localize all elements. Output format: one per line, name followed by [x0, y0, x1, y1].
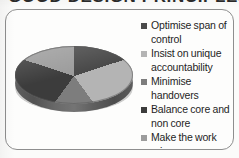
pie-chart: [12, 34, 136, 130]
legend-item-label: Make the work prime: [151, 131, 233, 150]
chart-frame: Optimise span of control Insist on uniqu…: [5, 9, 234, 150]
legend-swatch-icon: [141, 135, 147, 141]
legend-swatch-icon: [141, 23, 147, 29]
legend-item: Optimise span of control: [141, 19, 233, 46]
pie-chart-body: [12, 34, 136, 130]
page-heading-cropped: GOOD DESIGN PRINCIPLES: [0, 0, 239, 7]
legend-swatch-icon: [141, 107, 147, 113]
chart-legend: Optimise span of control Insist on uniqu…: [141, 19, 233, 150]
legend-item: Make the work prime: [141, 131, 233, 150]
legend-swatch-icon: [141, 79, 147, 85]
scanned-figure-page: GOOD DESIGN PRINCIPLES Optimise span of …: [0, 0, 239, 158]
legend-item-label: Balance core and non core: [151, 103, 233, 130]
pie-top-face: [15, 46, 133, 104]
legend-item: Balance core and non core: [141, 103, 233, 130]
legend-item: Minimise handovers: [141, 75, 233, 102]
pie-slices: [15, 46, 133, 104]
legend-swatch-icon: [141, 51, 147, 57]
legend-item-label: Minimise handovers: [151, 75, 233, 102]
page-heading-text: GOOD DESIGN PRINCIPLES: [8, 0, 236, 7]
legend-item: Insist on unique accountability: [141, 47, 233, 74]
legend-item-label: Insist on unique accountability: [151, 47, 233, 74]
legend-item-label: Optimise span of control: [151, 19, 233, 46]
